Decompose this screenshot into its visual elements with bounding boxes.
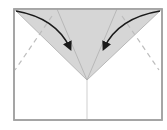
origami-diagram — [0, 0, 167, 130]
diagram-canvas — [0, 0, 167, 130]
